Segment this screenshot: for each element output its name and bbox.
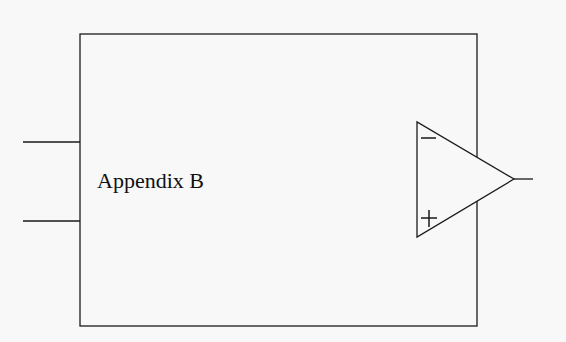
schematic <box>0 0 566 342</box>
opamp-triangle <box>417 122 514 237</box>
block-label: Appendix B <box>97 170 204 192</box>
